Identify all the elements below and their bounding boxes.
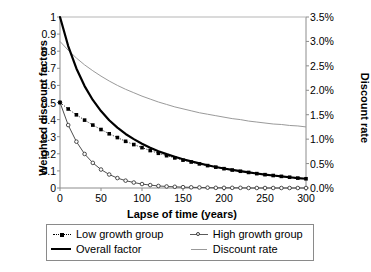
data-point-marker	[157, 184, 161, 188]
data-point-marker	[83, 152, 87, 156]
series-overall-factor	[60, 17, 306, 179]
y-axis-left-tick-label: 0.2	[16, 149, 56, 159]
data-point-marker	[107, 132, 111, 136]
data-point-marker	[271, 186, 275, 190]
data-point-marker	[140, 182, 144, 186]
data-point-marker	[116, 176, 120, 180]
series-discount-rate	[60, 41, 306, 127]
data-point-marker	[173, 185, 177, 189]
data-point-marker	[304, 186, 308, 190]
y-axis-left-tick-label: 1	[16, 12, 56, 22]
data-point-marker	[247, 186, 251, 190]
data-point-marker	[75, 113, 79, 117]
data-point-marker	[255, 186, 259, 190]
data-point-marker	[230, 186, 234, 190]
legend-row: Overall factor Discount rate	[51, 242, 309, 257]
discount-rate-key-icon	[188, 244, 210, 255]
y-axis-left-tick-label: 0.1	[16, 166, 56, 176]
data-point-marker	[124, 140, 128, 144]
x-axis-tick-label: 300	[286, 192, 326, 204]
legend-row: Low growth group High growth group	[51, 227, 309, 242]
data-point-marker	[99, 168, 103, 172]
x-axis-title: Lapse of time (years)	[60, 208, 304, 220]
series-line	[60, 17, 306, 179]
legend-item-overall-factor[interactable]: Overall factor	[51, 244, 188, 255]
data-point-marker	[132, 181, 136, 185]
x-axis-tick-label: 250	[245, 192, 285, 204]
series-line	[60, 103, 306, 179]
series-line	[60, 41, 306, 127]
data-point-marker	[165, 185, 169, 189]
y-axis-left-tick-label: 0.4	[16, 115, 56, 125]
low-growth-group-key-icon	[51, 229, 73, 240]
y-axis-right-tick-label: 0.5%	[310, 159, 350, 169]
y-axis-right-tick-label: 1.0%	[310, 134, 350, 144]
y-axis-right-tick-label: 2.5%	[310, 61, 350, 71]
data-point-marker	[288, 186, 292, 190]
data-point-marker	[91, 123, 95, 127]
series-low-growth-group	[58, 101, 308, 181]
y-axis-right-tick-label: 3.0%	[310, 36, 350, 46]
data-point-marker	[189, 186, 193, 190]
data-point-marker	[239, 186, 243, 190]
data-point-marker	[206, 186, 210, 190]
legend-item-label: Discount rate	[213, 244, 278, 255]
legend-item-label: High growth group	[213, 229, 303, 240]
data-point-marker	[58, 101, 62, 105]
x-axis-tick-label: 0	[40, 192, 80, 204]
data-point-marker	[66, 123, 70, 127]
y-axis-right-tick-label: 3.5%	[310, 12, 350, 22]
y-axis-left-tick-label: 0.6	[16, 80, 56, 90]
data-point-marker	[140, 146, 144, 150]
data-point-marker	[99, 128, 103, 132]
overall-factor-key-icon	[51, 244, 73, 255]
y-axis-right-tick-label: 1.5%	[310, 110, 350, 120]
y-axis-right-tick-label: 2.0%	[310, 85, 350, 95]
legend-item-high-growth-group[interactable]: High growth group	[188, 229, 309, 240]
legend: Low growth group High growth group Overa…	[46, 224, 314, 261]
data-point-marker	[263, 186, 267, 190]
y-axis-left-tick-label: 0.7	[16, 63, 56, 73]
data-point-marker	[107, 173, 111, 177]
x-axis-tick-label: 100	[122, 192, 162, 204]
series-high-growth-group	[58, 101, 308, 190]
legend-item-discount-rate[interactable]: Discount rate	[188, 244, 309, 255]
high-growth-group-key-icon	[188, 229, 210, 240]
legend-item-label: Overall factor	[76, 244, 141, 255]
y-axis-left-tick-label: 0.8	[16, 46, 56, 56]
data-point-marker	[83, 118, 87, 122]
data-point-marker	[124, 179, 128, 183]
y-axis-left-tick-label: 0.5	[16, 98, 56, 108]
y-axis-left-tick-label: 0.3	[16, 132, 56, 142]
legend-item-low-growth-group[interactable]: Low growth group	[51, 229, 188, 240]
data-point-marker	[296, 186, 300, 190]
x-axis-tick-label: 150	[163, 192, 203, 204]
y-axis-left-tick-label: 0.9	[16, 29, 56, 39]
data-point-marker	[280, 186, 284, 190]
data-point-marker	[181, 185, 185, 189]
legend-item-label: Low growth group	[76, 229, 163, 240]
y-axis-right-title: Discount rate	[359, 13, 371, 203]
data-point-marker	[214, 186, 218, 190]
data-point-marker	[148, 183, 152, 187]
x-axis-tick-label: 200	[204, 192, 244, 204]
data-point-marker	[116, 136, 120, 140]
data-point-marker	[132, 143, 136, 147]
data-point-marker	[66, 107, 70, 111]
x-axis-tick-label: 50	[81, 192, 121, 204]
data-point-marker	[198, 186, 202, 190]
data-point-marker	[222, 186, 226, 190]
data-point-marker	[75, 140, 79, 144]
data-point-marker	[91, 161, 95, 165]
